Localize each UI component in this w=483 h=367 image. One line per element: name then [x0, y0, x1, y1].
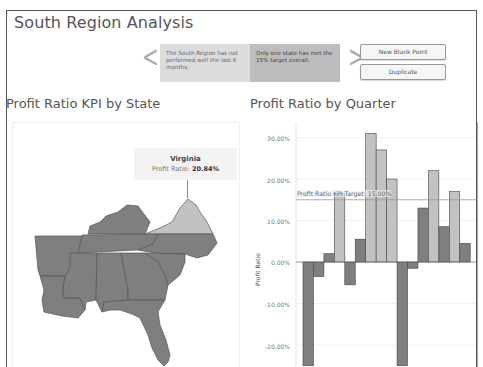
y-axis-label: Profit Ratio	[254, 253, 261, 286]
bar[interactable]	[303, 262, 313, 366]
bar[interactable]	[418, 208, 428, 262]
bar[interactable]	[334, 194, 344, 262]
bar[interactable]	[366, 133, 376, 262]
bar[interactable]	[376, 150, 386, 262]
chevron-left-icon[interactable]: <	[142, 38, 159, 74]
y-tick: -10.00%	[250, 301, 290, 308]
story-point-1[interactable]: The South Region has not performed well …	[160, 44, 250, 82]
new-blank-point-button[interactable]: New Blank Point	[360, 44, 446, 60]
tooltip-metric-label: Profit Ratio:	[152, 165, 192, 173]
bar[interactable]	[449, 191, 459, 262]
bar[interactable]	[408, 262, 418, 268]
bar-sheet-title: Profit Ratio by Quarter	[250, 96, 396, 111]
story-point-text: Only one state has met the 15% target ov…	[256, 50, 332, 63]
bar[interactable]	[460, 243, 470, 262]
tooltip-metric: Profit Ratio: 20.84%	[134, 164, 237, 174]
dashboard-title: South Region Analysis	[14, 13, 193, 32]
reference-line-label: Profit Ratio KPI Target: 15.00%	[297, 190, 391, 197]
story-point-text: The South Region has not performed well …	[166, 50, 238, 70]
bar[interactable]	[345, 262, 355, 285]
bar[interactable]	[313, 262, 323, 277]
cropped-header-text	[0, 0, 483, 6]
tooltip-state-name: Virginia	[134, 154, 237, 164]
map-sheet-title: Profit Ratio KPI by State	[6, 96, 160, 111]
bar[interactable]	[355, 239, 365, 262]
bar[interactable]	[397, 262, 407, 366]
bar-chart[interactable]: 30.00% 20.00% 10.00% 0.00% -10.00% -20.0…	[250, 122, 478, 367]
duplicate-button[interactable]: Duplicate	[360, 64, 446, 80]
bar[interactable]	[428, 171, 438, 262]
y-tick: 10.00%	[250, 218, 290, 225]
bar-chart-plot[interactable]	[250, 122, 483, 367]
y-tick: 30.00%	[250, 135, 290, 142]
bar[interactable]	[439, 227, 449, 262]
bar[interactable]	[324, 254, 334, 262]
tooltip-pointer	[187, 180, 188, 198]
tooltip-metric-value: 20.84%	[192, 165, 219, 173]
story-point-2-active[interactable]: Only one state has met the 15% target ov…	[250, 44, 340, 82]
map-tooltip: Virginia Profit Ratio: 20.84%	[134, 148, 237, 180]
y-tick: -20.00%	[250, 343, 290, 350]
y-tick: 20.00%	[250, 177, 290, 184]
